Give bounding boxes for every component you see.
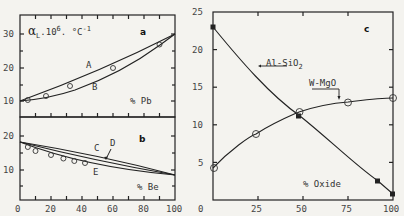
c-ytick-15: 15 xyxy=(192,82,203,92)
al-sio2-label: Al-SiO2 xyxy=(266,58,303,71)
w-mgo-arrowhead xyxy=(338,96,341,100)
curve-a-label: A xyxy=(86,60,92,70)
b-ytick-20: 20 xyxy=(3,131,14,141)
ab-xtick-60: 60 xyxy=(107,204,118,214)
c-xtick-100: 100 xyxy=(383,204,399,214)
c-xtick-75: 75 xyxy=(341,204,352,214)
panel-c-tag: c xyxy=(364,24,369,34)
panel-a-y-ticks xyxy=(20,34,175,101)
a-ytick-30: 30 xyxy=(3,29,14,39)
w-mgo-label: W-MgO xyxy=(309,78,336,88)
panel-c-y-ticks xyxy=(213,50,393,163)
panel-c-x-ticks xyxy=(258,12,348,200)
c-xtick-50: 50 xyxy=(296,204,307,214)
w-mgo-points xyxy=(211,95,397,172)
curve-b xyxy=(20,34,175,101)
ab-xtick-20: 20 xyxy=(45,204,56,214)
al-sio2-arrowhead xyxy=(258,65,261,68)
panel-b-x-ticks xyxy=(36,196,160,200)
figure: 30 20 10 αL.106. °C-1 a A B % Pb xyxy=(0,0,404,216)
panel-c: 25 20 15 10 5 0 25 50 75 100 c Al-SiO2 xyxy=(192,7,399,214)
panel-b-xlabel: % Be xyxy=(137,182,159,192)
w-mgo-arrow xyxy=(312,89,339,98)
panel-a-tag: a xyxy=(140,27,146,37)
ab-xtick-100: 100 xyxy=(166,204,182,214)
ab-xtick-80: 80 xyxy=(138,204,149,214)
c-ytick-10: 10 xyxy=(192,120,203,130)
c-ytick-5: 5 xyxy=(198,158,203,168)
b-ytick-10: 10 xyxy=(3,165,14,175)
panel-b-tag: b xyxy=(139,134,146,144)
curve-d-label: D xyxy=(110,138,115,148)
curve-w-mgo xyxy=(213,98,393,168)
ab-xtick-40: 40 xyxy=(76,204,87,214)
a-ytick-10: 10 xyxy=(3,96,14,106)
c-xtick-25: 25 xyxy=(251,204,262,214)
ab-xtick-0: 0 xyxy=(15,204,20,214)
curve-a xyxy=(20,34,175,101)
panel-a: 30 20 10 αL.106. °C-1 a A B % Pb xyxy=(3,15,175,117)
curve-c-label: C xyxy=(94,143,99,153)
panel-a-xlabel: % Pb xyxy=(130,96,152,106)
c-ytick-0: 0 xyxy=(198,204,203,214)
a-ytick-20: 20 xyxy=(3,63,14,73)
panel-b: 20 10 0 20 40 60 80 100 b C D E % Be xyxy=(3,117,182,214)
curve-b-label: B xyxy=(92,82,97,92)
panel-a-ylabel: αL.106. °C-1 xyxy=(28,24,91,40)
curve-e-label: E xyxy=(93,167,98,177)
c-ytick-25: 25 xyxy=(192,7,203,17)
c-ytick-20: 20 xyxy=(192,45,203,55)
panel-c-xlabel: % Oxide xyxy=(303,179,341,189)
